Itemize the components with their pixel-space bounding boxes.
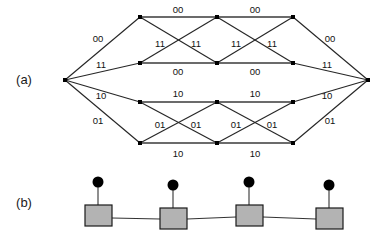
trellis-labels-group: 0011100100001111111100001010010101011010… [93, 4, 336, 159]
trellis-node-n-start [63, 78, 67, 82]
trellis-edge-label-lbl-m-10-2: 10 [250, 88, 261, 99]
factor-node-fg-factor-4 [316, 208, 343, 229]
trellis-edge-label-lbl-m-00-1: 00 [173, 66, 184, 77]
trellis-node-n-s3-r0 [291, 15, 295, 19]
trellis-node-n-s3-r1 [291, 61, 295, 65]
variable-node-fg-variable-4 [324, 180, 335, 191]
factor-graph-link-fg-link-2 [187, 217, 236, 219]
trellis-edge-label-lbl-m-00-2: 00 [250, 66, 261, 77]
trellis-edge-label-lbl-b-10-1: 10 [173, 148, 184, 159]
factor-graph-link-fg-link-3 [263, 217, 316, 219]
trellis-edge-label-lbl-t-00-1: 00 [173, 4, 184, 15]
trellis-node-n-end [366, 78, 370, 82]
factor-node-fg-factor-3 [236, 205, 263, 226]
trellis-node-n-s2-r0 [215, 15, 219, 19]
trellis-edge-label-lbl-x-11-4: 11 [267, 38, 277, 49]
trellis-edge-label-lbl-l-01: 01 [93, 115, 104, 126]
trellis-node-n-s3-r2 [291, 100, 295, 104]
trellis-edge-label-lbl-r-00: 00 [325, 33, 336, 44]
trellis-edge-label-lbl-x-11-3: 11 [231, 38, 241, 49]
trellis-edge-label-lbl-x-01-3: 01 [231, 119, 242, 130]
trellis-edge-label-lbl-l-00: 00 [93, 33, 104, 44]
trellis-node-n-s1-r1 [138, 61, 142, 65]
trellis-edge-label-lbl-x-01-1: 01 [155, 119, 166, 130]
factor-graph-link-fg-link-1 [112, 218, 160, 219]
trellis-edge-label-lbl-x-01-2: 01 [191, 119, 202, 130]
figure-root: 0011100100001111111100001010010101011010… [0, 0, 385, 242]
factor-node-fg-factor-1 [85, 205, 112, 226]
trellis-edge-e-start-s1r0 [65, 17, 140, 80]
panel-label-a: (a) [16, 72, 32, 87]
trellis-edge-label-lbl-r-11: 11 [322, 59, 332, 70]
trellis-edges-group [65, 17, 368, 143]
factor-graph-group [85, 177, 343, 230]
trellis-edge-label-lbl-x-01-4: 01 [267, 119, 278, 130]
trellis-edge-e-s3r0-end [293, 17, 368, 80]
panel-label-b: (b) [16, 195, 32, 210]
trellis-edge-label-lbl-x-11-2: 11 [191, 38, 201, 49]
trellis-edge-label-lbl-x-11-1: 11 [155, 38, 165, 49]
trellis-node-n-s2-r2 [215, 100, 219, 104]
variable-node-fg-variable-3 [244, 177, 255, 188]
trellis-edge-label-lbl-r-01: 01 [325, 115, 336, 126]
variable-node-fg-variable-1 [93, 177, 104, 188]
trellis-edge-label-lbl-m-10-1: 10 [173, 88, 184, 99]
panel-labels-group: (a) (b) [16, 72, 32, 210]
trellis-edge-label-lbl-l-10: 10 [96, 90, 107, 101]
trellis-node-n-s1-r0 [138, 15, 142, 19]
trellis-node-n-s2-r1 [215, 61, 219, 65]
factor-node-fg-factor-2 [160, 208, 187, 229]
trellis-edge-label-lbl-t-00-2: 00 [250, 4, 261, 15]
variable-node-fg-variable-2 [168, 180, 179, 191]
trellis-node-n-s1-r3 [138, 141, 142, 145]
figure-canvas: 0011100100001111111100001010010101011010… [0, 0, 385, 242]
trellis-edge-label-lbl-b-10-2: 10 [250, 148, 261, 159]
trellis-node-n-s3-r3 [291, 141, 295, 145]
trellis-edge-label-lbl-l-11: 11 [96, 59, 106, 70]
trellis-node-n-s2-r3 [215, 141, 219, 145]
trellis-edge-label-lbl-r-10: 10 [322, 90, 333, 101]
trellis-node-n-s1-r2 [138, 100, 142, 104]
